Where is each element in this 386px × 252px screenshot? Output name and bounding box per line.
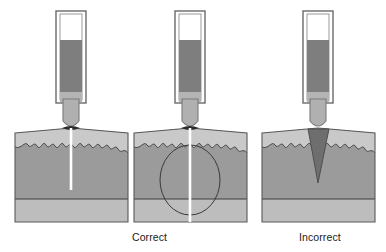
probe-assembly-2 [175,11,205,126]
probe-fill-3 [307,40,329,92]
caption-correct: Correct [132,231,167,243]
ultrasonic-couplant-figure: Correct Incorrect [0,0,386,252]
probe-assembly-1 [56,11,86,126]
figure-canvas [0,0,386,252]
panel-correct-2 [134,11,247,222]
probe-tip-2 [182,99,198,126]
probe-fill-2 [179,40,201,92]
caption-incorrect: Incorrect [299,231,341,243]
probe-fill-1 [60,40,82,92]
panel-incorrect [262,11,375,222]
panel-correct-1 [15,11,128,222]
probe-tip-3 [310,99,326,126]
probe-tip-1 [63,99,79,126]
probe-assembly-3 [303,11,333,126]
